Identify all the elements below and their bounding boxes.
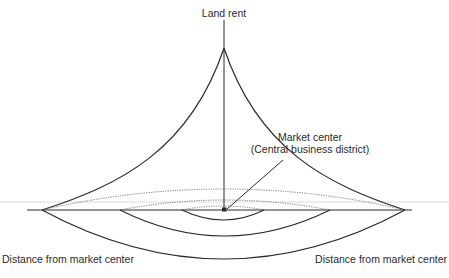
market-center-marker	[222, 208, 227, 212]
market-center-label-line2: (Central business district)	[251, 143, 369, 155]
distance-label-left: Distance from market center	[2, 253, 134, 265]
middle-ring-front	[120, 210, 330, 236]
outer-ring-front	[42, 210, 405, 259]
land-rent-cone-diagram: Land rent Market center (Central busines…	[0, 0, 449, 278]
land-rent-label: Land rent	[202, 7, 246, 19]
rent-curve-right	[224, 48, 405, 210]
rent-curve-left	[42, 48, 224, 210]
distance-label-right: Distance from market center	[315, 253, 447, 265]
market-center-label: Market center (Central business district…	[251, 131, 369, 155]
market-center-label-line1: Market center	[251, 131, 369, 143]
diagram-canvas	[0, 0, 449, 278]
